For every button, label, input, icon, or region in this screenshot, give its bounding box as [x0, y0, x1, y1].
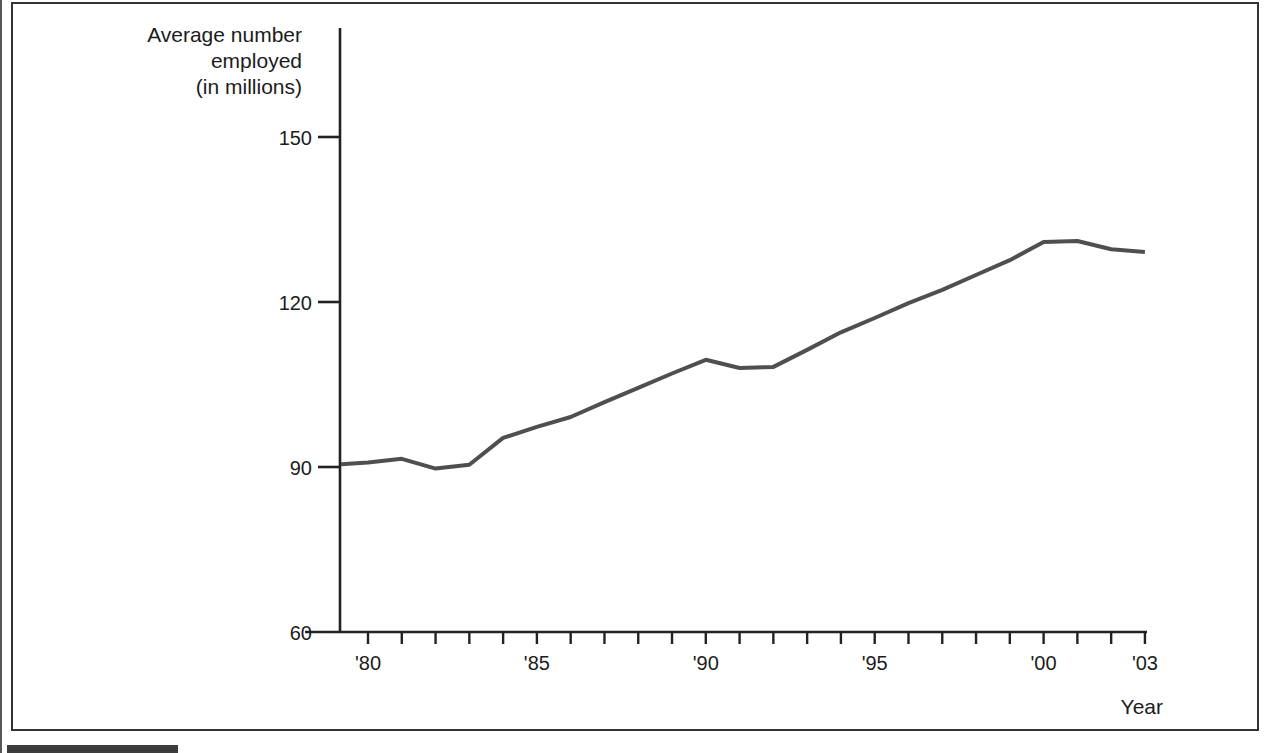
cropped-dark-bar — [7, 745, 178, 753]
y-tick-label: 150 — [279, 127, 312, 149]
chart-canvas: 6090120150'80'85'90'95'00'03 — [0, 0, 1264, 753]
x-tick-label: '80 — [355, 652, 381, 674]
employment-line-series — [341, 241, 1145, 469]
y-tick-label: 90 — [290, 457, 312, 479]
x-tick-label: '90 — [693, 652, 719, 674]
x-tick-label: '03 — [1132, 652, 1158, 674]
x-tick-label: '00 — [1031, 652, 1057, 674]
x-axis-title: Year — [1000, 695, 1163, 719]
y-tick-label: 120 — [279, 292, 312, 314]
x-tick-label: '95 — [862, 652, 888, 674]
x-tick-label: '85 — [524, 652, 550, 674]
y-tick-label: 60 — [290, 622, 312, 644]
